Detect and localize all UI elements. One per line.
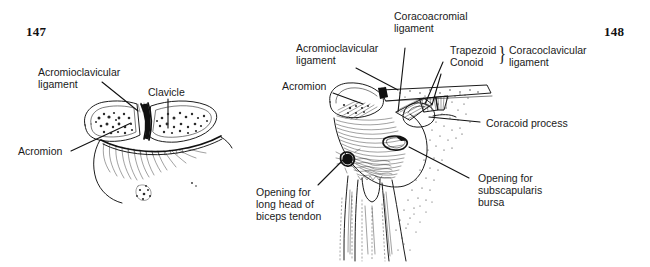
scapula-stipple-148 [395, 93, 470, 238]
clavicle-outline-147 [148, 101, 217, 142]
bone-fleck-outline-147 [136, 185, 151, 201]
deltoid-contour-right-147 [221, 137, 232, 148]
label-line-2: ligament [509, 56, 549, 68]
label-clavicle-147: Clavicle [148, 86, 185, 98]
leader-line-biceps-148 [318, 160, 343, 185]
humerus-shaft-right-148 [392, 180, 406, 261]
inferior-capsule-b-147 [103, 139, 222, 155]
biceps-opening-rays-148 [336, 149, 360, 173]
label-opening-biceps-tendon-148: Opening forlong head ofbiceps tendon [256, 186, 321, 223]
label-conoid-148: Conoid [450, 56, 483, 68]
clavicle-outline-148 [381, 85, 491, 101]
label-trapezoid-148: Trapezoid [450, 44, 496, 56]
figure-number-148: 148 [604, 24, 624, 40]
inferior-capsule-147 [101, 136, 221, 152]
biceps-opening-fill-148 [342, 154, 352, 165]
leader-line-trapezoid-148 [425, 62, 443, 104]
figure-148-drawing [318, 48, 492, 261]
figure-page: 147 148 [0, 0, 650, 267]
label-coracoacromial-ligament-148: Coracoacromialligament [394, 10, 468, 34]
leader-line-acromion-148 [333, 93, 363, 104]
leader-line-conoid-148 [432, 74, 441, 105]
label-line-1: Coracoclavicular [509, 44, 587, 56]
joint-disc-147 [141, 104, 146, 139]
bone-flecks-147 [136, 182, 197, 200]
clavicle-trabeculae-147 [156, 112, 208, 134]
acromion-hatching-148 [338, 101, 377, 119]
anatomical-line-art [0, 0, 650, 267]
acromion-outline-148 [330, 83, 384, 118]
label-acromioclavicular-ligament-147: Acromioclavicularligament [38, 66, 120, 90]
coracoacromial-ligament-148 [396, 98, 432, 120]
capsule-fibres-148 [336, 116, 405, 178]
figure-147-drawing [71, 82, 232, 203]
acromion-inner-148 [336, 88, 377, 103]
capsule-outline-148 [334, 114, 427, 187]
acromion-inner-border-147 [91, 106, 136, 137]
label-opening-subscapularis-bursa-148: Opening forsubscapularisbursa [478, 172, 542, 209]
humerus-shaft-left2-148 [355, 180, 358, 261]
biceps-opening-148 [341, 152, 355, 166]
coracoid-inner-148 [408, 106, 425, 113]
label-line-2: subscapularis [478, 184, 542, 196]
capsule-wavy-fibres-148 [348, 158, 392, 178]
coracoclavicular-brace-148: } [498, 42, 506, 64]
figure-number-147: 147 [26, 24, 46, 40]
clavicle-inner-border-147 [153, 106, 211, 138]
leader-line-coracoacromial-148 [398, 48, 405, 112]
label-acromion-147: Acromion [18, 145, 62, 157]
acromion-outline-147 [84, 101, 140, 141]
trapezoid-ligament-148 [420, 97, 438, 112]
conoid-ligament-148 [436, 96, 448, 110]
acromion-trabeculae-148 [343, 104, 369, 114]
coracoid-process-outline-148 [403, 103, 435, 127]
label-acromion-148: Acromion [282, 80, 326, 92]
acjoint-hatch-148 [379, 87, 387, 98]
label-line-1: Acromioclavicular [38, 66, 120, 78]
coracoid-tip-148 [433, 115, 456, 117]
label-line-2: ligament [38, 78, 78, 90]
leader-line-bursa-148 [409, 147, 469, 178]
leader-line-acromion-147 [71, 123, 131, 151]
humerus-shaft-right2-148 [382, 183, 389, 261]
leader-line-acl-148 [356, 68, 398, 90]
label-acromioclavicular-ligament-148: Acromioclavicularligament [296, 42, 378, 66]
label-line-1: Opening for [256, 186, 311, 198]
humerus-shaft-left-148 [344, 176, 348, 260]
coracoacromial-hatch-148 [398, 99, 431, 119]
clavicle-stipple-148 [399, 89, 478, 97]
subscapularis-bursa-opening-148 [383, 136, 407, 150]
acjoint-block-148 [378, 87, 388, 99]
clavicle-lower-edge-148 [386, 96, 492, 101]
label-line-2: ligament [394, 22, 434, 34]
label-line-3: biceps tendon [256, 210, 321, 222]
capsule-ticks-147 [128, 148, 183, 155]
acromion-trabeculae-147 [95, 112, 133, 134]
label-coracoclavicular-ligament-148: Coracoclavicularligament [509, 44, 587, 68]
scapula-stipple-lower-148 [398, 202, 433, 251]
joint-disc-fill-147 [142, 104, 151, 140]
subscapularis-bursa-inner-148 [386, 138, 405, 148]
label-line-1: Coracoacromial [394, 10, 468, 22]
joint-disc-b-147 [148, 103, 151, 140]
label-line-2: long head of [256, 198, 314, 210]
fascial-strands-148 [340, 196, 385, 261]
conoid-hatch-148 [438, 96, 447, 110]
label-line-2: ligament [296, 54, 336, 66]
deltoid-contour-147 [94, 140, 122, 203]
humerus-shading-148 [348, 190, 392, 256]
anatomical-neck-serration-148 [358, 176, 382, 180]
intertubercular-groove-148 [362, 178, 380, 202]
acl-hatching-147 [138, 103, 149, 112]
fascia-hatching-147 [103, 143, 206, 180]
label-coracoid-process-148: Coracoid process [486, 117, 568, 129]
label-line-3: bursa [478, 196, 504, 208]
trapezoid-hatch-148 [422, 98, 436, 112]
leader-line-coracoid-148 [429, 117, 480, 122]
label-line-1: Acromioclavicular [296, 42, 378, 54]
label-line-1: Opening for [478, 172, 533, 184]
subscapularis-bursa-shadow-148 [396, 136, 406, 141]
